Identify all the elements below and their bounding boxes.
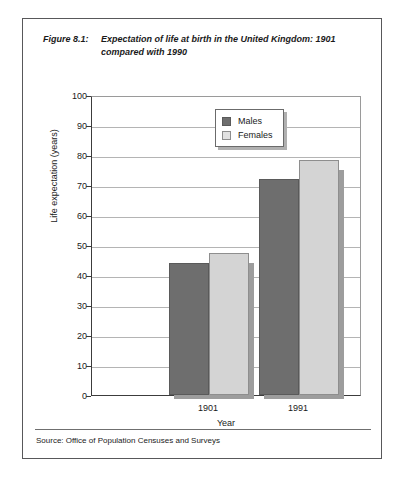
source-divider — [35, 429, 371, 430]
y-axis-tick-label: 60 — [57, 211, 87, 221]
figure-frame: Figure 8.1: Expectation of life at birth… — [22, 18, 382, 459]
y-axis-tick-label: 90 — [57, 121, 87, 131]
y-axis-tick-label: 30 — [57, 301, 87, 311]
y-axis-tick-label: 40 — [57, 271, 87, 281]
y-axis-tick-label: 10 — [57, 361, 87, 371]
chart-container: Life expectation (years) 010203040506070… — [23, 19, 383, 460]
y-axis-tick-label: 70 — [57, 181, 87, 191]
bar-1991-males — [259, 179, 299, 395]
bar-1991-females — [299, 160, 339, 396]
x-axis-tick-label: 1991 — [258, 403, 338, 413]
legend-label-females: Females — [238, 130, 273, 140]
gridline — [92, 157, 360, 158]
x-axis-title: Year — [91, 418, 361, 428]
y-axis-tick-label: 0 — [57, 391, 87, 401]
source-note: Source: Office of Population Censuses an… — [36, 436, 220, 445]
legend-label-males: Males — [238, 116, 262, 126]
bar-1901-females — [209, 253, 249, 396]
legend-swatch-males-icon — [222, 117, 231, 126]
y-axis-tick-label: 80 — [57, 151, 87, 161]
chart-legend: Males Females — [215, 109, 284, 147]
legend-item-males: Males — [222, 114, 273, 128]
bar-1901-males — [169, 263, 209, 395]
y-axis-tick-labels: 0102030405060708090100 — [51, 96, 87, 396]
legend-swatch-females-icon — [222, 131, 231, 140]
legend-item-females: Females — [222, 128, 273, 142]
y-axis-tick-mark — [86, 396, 91, 397]
y-axis-tick-label: 100 — [57, 91, 87, 101]
y-axis-tick-label: 20 — [57, 331, 87, 341]
x-axis-tick-label: 1901 — [168, 403, 248, 413]
y-axis-tick-label: 50 — [57, 241, 87, 251]
